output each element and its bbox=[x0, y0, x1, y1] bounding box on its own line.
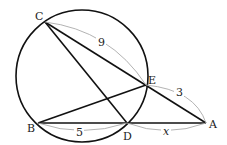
segment-BE bbox=[38, 85, 146, 123]
measure-DA: x bbox=[163, 125, 170, 138]
secant-diagram: 9 3 5 x C E B D A bbox=[0, 0, 227, 145]
measure-EA: 3 bbox=[176, 86, 183, 99]
measure-BD: 5 bbox=[76, 126, 83, 139]
measure-CE: 9 bbox=[98, 36, 105, 49]
point-label-A: A bbox=[208, 118, 218, 131]
point-label-E: E bbox=[148, 74, 156, 87]
point-label-D: D bbox=[123, 130, 132, 143]
point-label-C: C bbox=[35, 10, 43, 23]
point-label-B: B bbox=[27, 122, 35, 135]
segment-CA bbox=[45, 22, 206, 123]
segment-CD bbox=[45, 22, 127, 123]
